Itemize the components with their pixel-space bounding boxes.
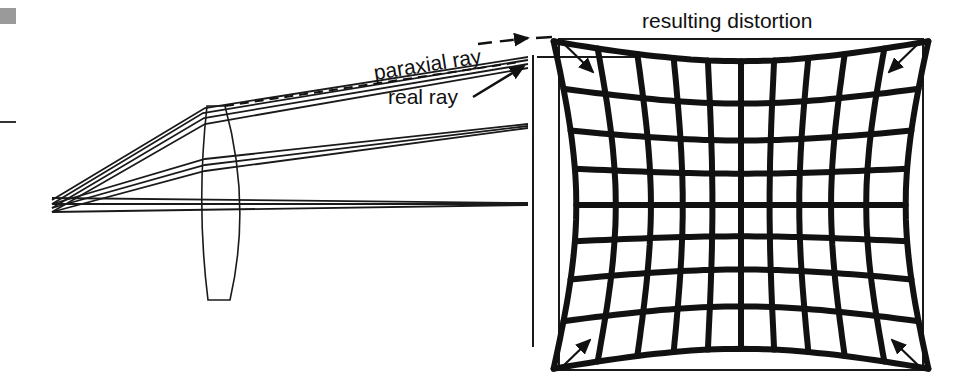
- distortion-grid: [554, 41, 929, 368]
- distortion-diagram: paraxial ray real ray resulting distorti…: [0, 0, 966, 389]
- real-ray-arrow: [473, 66, 524, 97]
- grid-horizontal-line: [554, 349, 929, 369]
- corner-mark: [0, 8, 16, 24]
- paraxial-arrow: [478, 38, 528, 44]
- real-ray-label: real ray: [388, 85, 459, 108]
- lens: [202, 106, 240, 300]
- grid-horizontal-line: [554, 41, 929, 61]
- paraxial-arrow-tail: [536, 37, 552, 38]
- ray-bundle-bottom: [52, 198, 528, 212]
- figure-title: resulting distortion: [642, 9, 812, 32]
